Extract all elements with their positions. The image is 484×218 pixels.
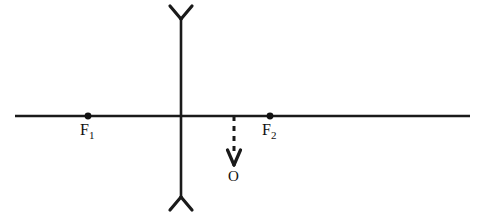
- focal-point-f1-letter: F: [80, 121, 89, 138]
- focal-point-f2-subscript: 2: [271, 129, 277, 141]
- lens-bottom-right-arm: [181, 197, 192, 210]
- optics-diagram: F1 F2 O: [0, 0, 484, 218]
- focal-point-f1-dot: [85, 113, 92, 120]
- focal-point-f2-label: F2: [262, 122, 276, 141]
- focal-point-f2-dot: [267, 113, 274, 120]
- lens-top-right-arm: [181, 6, 192, 19]
- object-label: O: [228, 169, 239, 184]
- focal-point-f1-subscript: 1: [89, 129, 95, 141]
- focal-point-f1-label: F1: [80, 122, 94, 141]
- optics-diagram-canvas: [0, 0, 484, 218]
- lens-bottom-left-arm: [170, 197, 181, 210]
- focal-point-f2-letter: F: [262, 121, 271, 138]
- object-arrowhead-right: [234, 150, 241, 165]
- lens-top-left-arm: [170, 6, 181, 19]
- object-arrowhead-left: [228, 150, 235, 165]
